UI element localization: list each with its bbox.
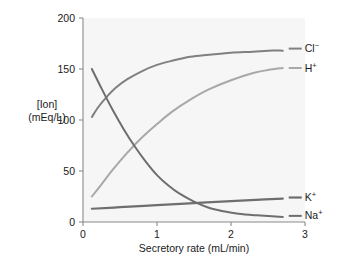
series-label-hplus: H+ — [305, 61, 318, 74]
y-tick-label: 200 — [57, 12, 75, 24]
series-label-naplus: Na+ — [305, 208, 323, 221]
series-label-kplus: K+ — [305, 190, 317, 203]
y-tick-label: 150 — [57, 63, 75, 75]
x-tick-label: 3 — [302, 228, 308, 240]
y-axis-title-line2: (mEq/L) — [28, 111, 65, 123]
chart-figure: 050100150200 0123 Cl−H+K+Na+ [Ion] (mEq/… — [0, 0, 350, 259]
plot-area-background — [83, 18, 305, 222]
y-tick-label: 50 — [63, 165, 75, 177]
x-tick-label: 2 — [228, 228, 234, 240]
y-axis-title-line1: [Ion] — [37, 98, 58, 110]
x-axis-ticks: 0123 — [80, 222, 308, 240]
y-tick-label: 0 — [69, 216, 75, 228]
x-tick-label: 1 — [154, 228, 160, 240]
x-tick-label: 0 — [80, 228, 86, 240]
series-label-clminus: Cl− — [305, 41, 320, 54]
ion-concentration-line-chart: 050100150200 0123 Cl−H+K+Na+ [Ion] (mEq/… — [0, 0, 350, 259]
x-axis-title: Secretory rate (mL/min) — [139, 242, 249, 254]
